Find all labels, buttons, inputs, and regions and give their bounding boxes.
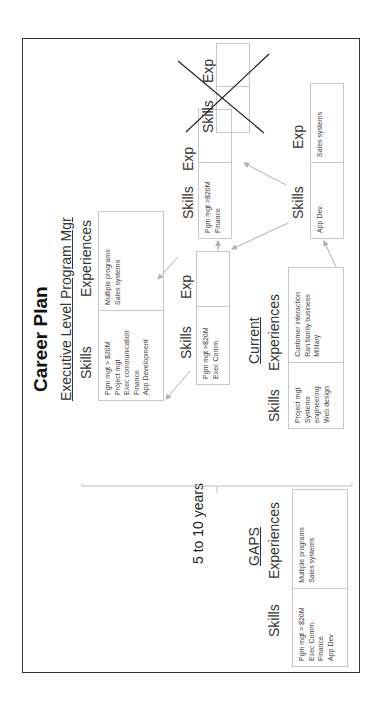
executive-skills-cell: Pgm mgt > $20M Project mgt Exec communic… [99,311,163,400]
gaps-skills-label: Skills [266,604,282,637]
skill-item: Pgm mgt > $20M [297,594,307,661]
current-skills-label: Skills [266,389,282,422]
current-experiences-label: Experiences [266,294,282,371]
skill-item: App Development [141,316,151,395]
page-title: Career Plan [30,286,52,392]
skill-item: Pgm mgt >$20M [203,168,213,233]
step-d-skills-cell [217,87,249,132]
skill-item: Finance [213,168,223,233]
step-c-box: App Dev. Sales systems [310,83,344,239]
timeframe-label: 5 to 10 years [190,483,206,564]
executive-experiences-cell: Multiple programs Sales systems [99,212,163,311]
skill-item: Web design [322,368,332,423]
step-a-skills-cell: Pgm mgt >$20M Exec Comm. [197,307,229,384]
step-b-skills-cell: Pgm mgt >$20M Finance [199,163,231,238]
step-c-exp-cell: Sales systems [311,84,343,163]
skill-item: Exec communication [122,316,132,395]
step-c-exp-label: Exp [290,125,306,149]
experience-item: Sales systems [315,89,325,157]
gaps-box: Pgm mgt > $20M Exec Comm. Finance App De… [292,489,348,667]
executive-heading: Executive Level Program Mgr [58,217,74,401]
step-a-box: Pgm mgt >$20M Exec Comm. [196,251,230,385]
skill-item: Pgm mgt >$20M [201,312,211,379]
step-d-exp-label: Exp [200,59,216,83]
gaps-skills-cell: Pgm mgt > $20M Exec Comm. Finance App De… [293,589,347,666]
skill-item: Project mgt [113,316,123,395]
experience-item: Ran family business [303,273,313,357]
skill-item: Exec Comm. [211,312,221,379]
step-a-exp-cell [197,252,229,307]
experience-item: Multiple programs [103,217,113,305]
experience-item: Military [312,273,322,357]
skill-item: App Dev [326,594,336,661]
executive-skills-label: Skills [78,346,94,379]
step-d-box [216,43,250,133]
step-b-skills-label: Skills [180,186,196,219]
gaps-experiences-cell: Multiple programs Sales systems [293,490,347,589]
skill-item: Exec Comm. [307,594,317,661]
career-plan-slide: Career Plan Executive Level Program Mgr … [0,0,380,719]
executive-experiences-label: Experiences [78,220,94,297]
skill-item: engineering [312,368,322,423]
step-a-skills-label: Skills [178,326,194,359]
step-c-skills-label: Skills [290,186,306,219]
current-skills-cell: Project mgt Systems engineering Web desi… [289,363,343,428]
current-heading: Current [246,317,262,364]
step-b-exp-label: Exp [180,147,196,171]
skill-item: Pgm mgt > $20M [103,316,113,395]
step-d-exp-cell [217,44,249,87]
current-experiences-cell: Customer interaction Ran family business… [289,268,343,363]
step-d-skills-label: Skills [200,100,216,133]
step-c-skills-cell: App Dev. [311,163,343,238]
skill-item: Systems [303,368,313,423]
skill-item: Finance [316,594,326,661]
experience-item: Sales systems [113,217,123,305]
experience-item: Sales systems [307,495,317,583]
experience-item: Multiple programs [297,495,307,583]
skill-item: Project mgt [293,368,303,423]
current-box: Project mgt Systems engineering Web desi… [288,267,344,429]
step-a-exp-label: Exp [178,275,194,299]
skill-item: App Dev. [315,168,325,233]
executive-box: Pgm mgt > $20M Project mgt Exec communic… [98,211,164,401]
experience-item: Customer interaction [293,273,303,357]
skill-item: Finance [132,316,142,395]
gaps-heading: GAPS [246,527,262,566]
gaps-experiences-label: Experiences [266,502,282,579]
